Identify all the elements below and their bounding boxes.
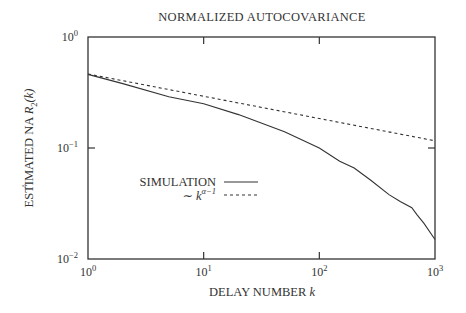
- axis-ticks: 10010110210310010−110−2: [57, 28, 443, 279]
- plot-curves: [88, 74, 435, 240]
- legend: SIMULATION ∼ kα−1: [140, 175, 258, 203]
- x-tick-label: 102: [311, 263, 327, 279]
- legend-label-power-law: ∼ kα−1: [182, 186, 216, 203]
- y-tick-label: 100: [62, 28, 78, 44]
- x-tick-label: 101: [196, 263, 212, 279]
- plot-frame: [88, 37, 435, 259]
- x-tick-label: 100: [80, 263, 96, 279]
- y-tick-label: 10−1: [57, 139, 78, 155]
- x-axis-label: DELAY NUMBER k: [209, 285, 315, 299]
- power-law-fit-line: [88, 74, 435, 141]
- autocovariance-chart: NORMALIZED AUTOCOVARIANCE 10010110210310…: [0, 0, 466, 313]
- simulation-line: [88, 74, 435, 239]
- y-axis-label: ESTIMATED NA R2(k): [22, 89, 39, 208]
- y-tick-label: 10−2: [57, 250, 78, 266]
- chart-title: NORMALIZED AUTOCOVARIANCE: [158, 10, 365, 24]
- x-tick-label: 103: [427, 263, 443, 279]
